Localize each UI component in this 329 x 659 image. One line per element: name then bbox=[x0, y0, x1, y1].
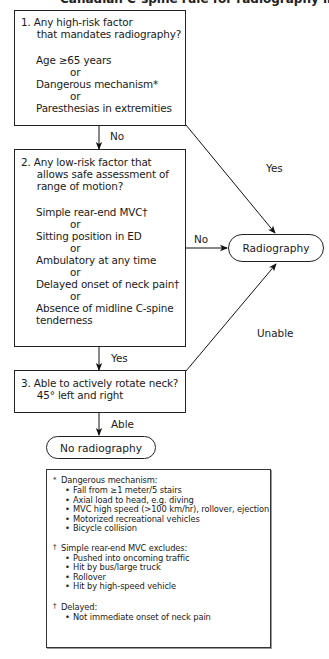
outcome-no-radiography: No radiography bbox=[46, 436, 156, 459]
box1-criterion-dangerous-mechanism: Dangerous mechanism* bbox=[36, 78, 158, 90]
box2-or-2: or bbox=[36, 242, 80, 254]
footnote-delayed-item: Not immediate onset of neck pain bbox=[73, 613, 211, 623]
outcome-no-radiography-label: No radiography bbox=[60, 442, 142, 454]
bullet-icon: • bbox=[65, 581, 70, 591]
box2-criterion-ambulatory: Ambulatory at any time bbox=[36, 254, 156, 266]
bullet-icon: • bbox=[65, 523, 70, 533]
box3-question-line1: 3. Able to actively rotate neck? bbox=[21, 377, 178, 389]
box1-question-line2: that mandates radiography? bbox=[21, 28, 181, 40]
box2-or-1: or bbox=[36, 218, 80, 230]
box2-question-line2: allows safe assessment of bbox=[21, 168, 169, 180]
bullet-icon: • bbox=[65, 562, 70, 572]
box3-question-line2: 45° left and right bbox=[21, 389, 123, 401]
outcome-radiography-label: Radiography bbox=[242, 242, 309, 254]
box1-or-1: or bbox=[36, 66, 80, 78]
footnote-mark-asterisk: * bbox=[53, 476, 57, 484]
bullet-icon: • bbox=[65, 504, 70, 514]
box2-criterion-delayed-onset: Delayed onset of neck pain† bbox=[36, 278, 179, 290]
outcome-radiography: Radiography bbox=[228, 234, 324, 262]
bullet-icon: • bbox=[65, 485, 70, 495]
edge-label-box2-no: No bbox=[194, 233, 208, 245]
footnote-mark-dagger: † bbox=[53, 543, 57, 551]
box2-question-line3: range of motion? bbox=[21, 180, 123, 192]
footnote-mark-dagger: † bbox=[53, 602, 57, 610]
box2-or-4: or bbox=[36, 290, 80, 302]
box1-or-2: or bbox=[36, 90, 80, 102]
footnote-rear-end-item: Hit by high-speed vehicle bbox=[73, 582, 176, 592]
bullet-icon: • bbox=[65, 612, 70, 622]
edge-label-box3-able: Able bbox=[111, 418, 134, 430]
box2-criterion-midline-tenderness-cont: tenderness bbox=[36, 314, 92, 326]
footnote-dangerous-item: Bicycle collision bbox=[73, 524, 137, 534]
box2-question-line1: 2. Any low-risk factor that bbox=[21, 156, 152, 168]
box2-or-3: or bbox=[36, 266, 80, 278]
box1-criterion-age: Age ≥65 years bbox=[36, 54, 111, 66]
box1-criterion-paresthesias: Paresthesias in extremities bbox=[36, 102, 172, 114]
edge-label-box1-yes: Yes bbox=[266, 162, 283, 174]
box2-criterion-midline-tenderness: Absence of midline C-spine bbox=[36, 302, 173, 314]
box2-criterion-rear-end: Simple rear-end MVC† bbox=[36, 206, 147, 218]
box2-criterion-sitting: Sitting position in ED bbox=[36, 230, 142, 242]
edge-label-box2-yes: Yes bbox=[111, 352, 128, 364]
edge-label-box1-no: No bbox=[110, 130, 124, 142]
edge-label-box3-unable: Unable bbox=[257, 327, 293, 339]
box1-question-line1: 1. Any high-risk factor bbox=[21, 16, 133, 28]
